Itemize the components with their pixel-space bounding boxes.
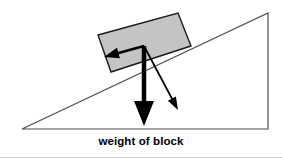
incline-diagram-canvas: [0, 0, 282, 160]
figure-root: weight of block: [0, 0, 282, 160]
